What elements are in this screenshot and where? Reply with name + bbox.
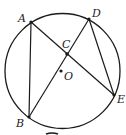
label-d: D <box>91 7 101 20</box>
point-d <box>87 17 90 20</box>
cropped-fragment <box>46 133 58 134</box>
point-c <box>65 52 69 56</box>
label-c: C <box>62 38 71 51</box>
geometry-diagram: A B C D E O <box>0 0 126 135</box>
label-o: O <box>64 70 73 83</box>
segment-ab <box>29 22 31 117</box>
segment-bd <box>29 19 89 117</box>
label-a: A <box>17 12 26 25</box>
point-o <box>59 69 62 72</box>
label-b: B <box>15 117 24 130</box>
point-a <box>29 20 32 23</box>
point-e <box>112 93 115 96</box>
point-b <box>27 115 30 118</box>
label-e: E <box>116 93 125 106</box>
